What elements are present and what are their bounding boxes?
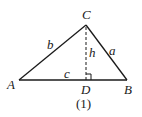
altitude-label-h: h: [89, 45, 96, 60]
vertex-label-b: B: [124, 82, 132, 97]
side-label-c: c: [64, 66, 70, 81]
triangle-diagram: C A B D b a c h (1): [0, 0, 142, 117]
vertex-label-c: C: [82, 7, 91, 22]
figure-caption: (1): [76, 96, 91, 111]
vertex-label-d: D: [80, 82, 91, 97]
side-label-a: a: [109, 43, 116, 58]
right-angle-marker: [86, 74, 91, 80]
side-b: [19, 25, 86, 80]
vertex-label-a: A: [6, 77, 15, 92]
side-label-b: b: [47, 37, 54, 52]
